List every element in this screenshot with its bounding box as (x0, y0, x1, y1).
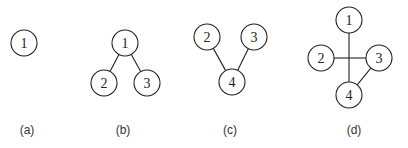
node-label: 1 (21, 36, 28, 51)
panel-caption-d: (d) (347, 123, 362, 137)
edge-1-3 (131, 54, 140, 71)
node-label: 4 (346, 88, 353, 103)
node-2: 2 (194, 24, 220, 50)
node-2: 2 (91, 70, 117, 96)
node-1: 1 (11, 30, 37, 56)
node-4: 4 (336, 82, 362, 108)
captions-layer: (a)(b)(c)(d) (20, 123, 362, 137)
graph-diagram: 11232341234 (a)(b)(c)(d) (0, 0, 408, 148)
node-label: 2 (318, 51, 325, 66)
node-1: 1 (336, 7, 362, 33)
node-3: 3 (241, 24, 267, 50)
node-2: 2 (308, 45, 334, 71)
node-label: 3 (376, 51, 383, 66)
panel-caption-a: (a) (20, 123, 35, 137)
node-label: 3 (251, 30, 258, 45)
edge-2-4 (213, 48, 225, 70)
node-1: 1 (112, 30, 138, 56)
edge-3-4 (357, 68, 371, 85)
edge-1-2 (110, 55, 119, 72)
node-3: 3 (134, 70, 160, 96)
node-label: 3 (144, 76, 151, 91)
node-label: 2 (101, 76, 108, 91)
node-4: 4 (219, 69, 245, 95)
panel-caption-c: (c) (223, 123, 237, 137)
node-label: 2 (204, 30, 211, 45)
panel-caption-b: (b) (116, 123, 131, 137)
edge-3-4 (238, 49, 249, 71)
node-label: 1 (122, 36, 129, 51)
node-label: 4 (229, 75, 236, 90)
node-3: 3 (366, 45, 392, 71)
node-label: 1 (346, 13, 353, 28)
